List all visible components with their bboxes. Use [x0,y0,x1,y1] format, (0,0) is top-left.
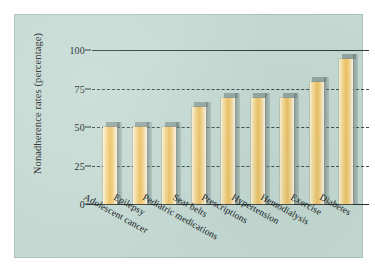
x-axis-tick-labels: Adolescent cancerEpilepsyPediatric medic… [78,192,368,262]
bar [339,59,353,204]
y-axis-title: Nonadherence rates (percentage) [32,16,43,191]
y-axis-tick-mark [85,50,91,51]
bar [280,98,294,204]
bar [192,107,206,204]
figure-canvas: Nonadherence rates (percentage) 02550751… [0,0,375,272]
bar [221,98,235,204]
y-axis-tick-mark [85,88,91,89]
y-axis-tick-mark [85,127,91,128]
y-axis-tick-mark [85,165,91,166]
gridline [92,50,369,51]
bar [310,82,324,204]
bar [251,98,265,204]
y-axis-tick-label: 100 [69,45,85,56]
y-axis-tick-label: 50 [75,122,85,133]
y-axis-tick-label: 75 [75,83,85,94]
plot-area: 0255075100 [92,50,369,204]
x-axis-tick-label: Diabetes [318,192,353,217]
y-axis-tick-label: 25 [75,160,85,171]
